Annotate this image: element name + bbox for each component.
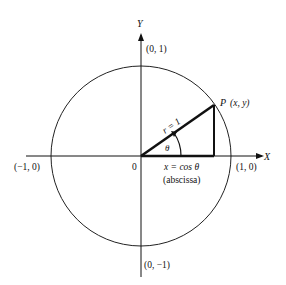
point-left-label: (−1, 0) <box>14 162 40 173</box>
x-note-label: (abscissa) <box>163 175 200 186</box>
point-bottom-label: (0, −1) <box>144 260 170 271</box>
x-equation-label: x = cos θ <box>163 162 199 172</box>
point-p-coords: (x, y) <box>230 98 250 109</box>
radius-label: r = 1 <box>160 116 182 135</box>
y-axis-label: Y <box>137 18 144 29</box>
point-right-label: (1, 0) <box>236 162 257 173</box>
angle-arc <box>174 133 181 156</box>
diagram-svg: Y X (0, 1) (0, −1) (−1, 0) (1, 0) 0 P (x… <box>0 0 286 285</box>
x-axis-label: X <box>263 151 271 162</box>
point-top-label: (0, 1) <box>146 44 167 55</box>
radius-line <box>141 105 214 156</box>
point-p-letter: P <box>219 97 226 108</box>
origin-label: 0 <box>132 162 137 172</box>
unit-circle-diagram: Y X (0, 1) (0, −1) (−1, 0) (1, 0) 0 P (x… <box>0 0 286 285</box>
angle-label: θ <box>165 143 170 153</box>
